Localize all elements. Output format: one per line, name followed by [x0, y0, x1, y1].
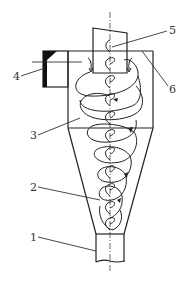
inlet-duct: [32, 51, 82, 87]
leader-6: [142, 51, 168, 86]
label-3: 3: [30, 129, 37, 142]
label-2: 2: [30, 181, 37, 194]
leader-1: [38, 237, 96, 251]
leader-5: [112, 31, 167, 47]
leader-2: [38, 187, 100, 200]
cyclone-diagram: 1 2 3 4 5 6: [0, 0, 190, 288]
label-5: 5: [169, 24, 176, 37]
leader-3: [38, 118, 80, 135]
label-4: 4: [13, 70, 20, 83]
label-6: 6: [169, 83, 176, 96]
leader-4: [21, 68, 45, 76]
label-1: 1: [30, 231, 37, 244]
